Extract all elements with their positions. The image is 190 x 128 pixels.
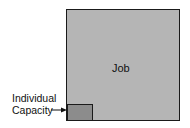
individual-capacity-label-line2: Capacity: [12, 104, 56, 116]
job-label: Job: [112, 62, 130, 75]
individual-capacity-box: [67, 104, 93, 121]
individual-capacity-label-line1: Individual: [12, 92, 56, 104]
arrow-right-icon: [51, 107, 67, 113]
individual-capacity-label: Individual Capacity: [12, 92, 56, 116]
